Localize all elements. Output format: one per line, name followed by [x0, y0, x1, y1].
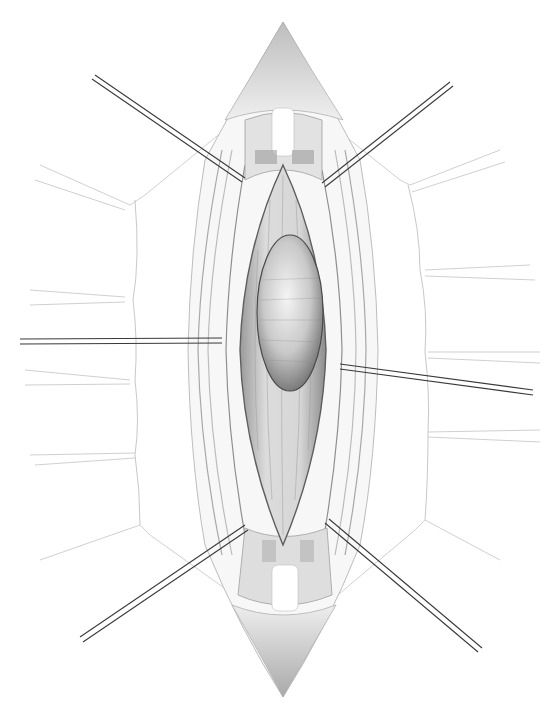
- oval-mass: [257, 235, 323, 391]
- bottom-wedge: [232, 605, 336, 697]
- illustration-svg: [0, 0, 552, 708]
- top-wedge: [225, 22, 343, 120]
- surgical-illustration: [0, 0, 552, 708]
